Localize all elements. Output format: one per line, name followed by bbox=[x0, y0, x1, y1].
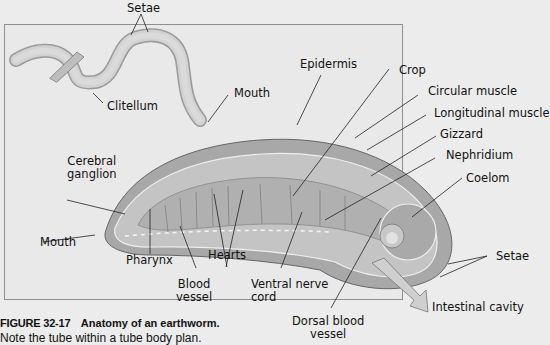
figure-caption: FIGURE 32-17 Anatomy of an earthworm. No… bbox=[0, 316, 220, 345]
label-mouth-worm: Mouth bbox=[234, 87, 270, 100]
label-pharynx: Pharynx bbox=[126, 254, 173, 267]
figure-number: FIGURE 32-17 bbox=[0, 317, 70, 329]
label-setae-right: Setae bbox=[496, 250, 529, 263]
label-intestinal-cavity: Intestinal cavity bbox=[432, 301, 524, 314]
label-clitellum: Clitellum bbox=[107, 100, 158, 113]
figure-note: Note the tube within a tube body plan. bbox=[0, 331, 220, 345]
label-gizzard: Gizzard bbox=[440, 128, 483, 141]
label-nephridium: Nephridium bbox=[446, 149, 513, 162]
label-dorsal-blood-vessel: Dorsal blood vessel bbox=[292, 315, 364, 341]
label-epidermis: Epidermis bbox=[300, 58, 357, 71]
figure-title: Anatomy of an earthworm. bbox=[81, 317, 220, 329]
label-blood-vessel: Blood vessel bbox=[176, 278, 212, 304]
label-circular-muscle: Circular muscle bbox=[428, 85, 517, 98]
label-setae-top: Setae bbox=[127, 2, 160, 15]
label-longitudinal-muscle: Longitudinal muscle bbox=[434, 107, 550, 120]
label-coelom: Coelom bbox=[466, 172, 510, 185]
label-ventral-nerve-cord: Ventral nerve cord bbox=[251, 278, 328, 304]
label-cerebral-ganglion: Cerebral ganglion bbox=[67, 155, 117, 181]
label-hearts: Hearts bbox=[208, 249, 246, 262]
label-mouth-section: Mouth bbox=[40, 236, 76, 249]
label-crop: Crop bbox=[399, 64, 426, 77]
